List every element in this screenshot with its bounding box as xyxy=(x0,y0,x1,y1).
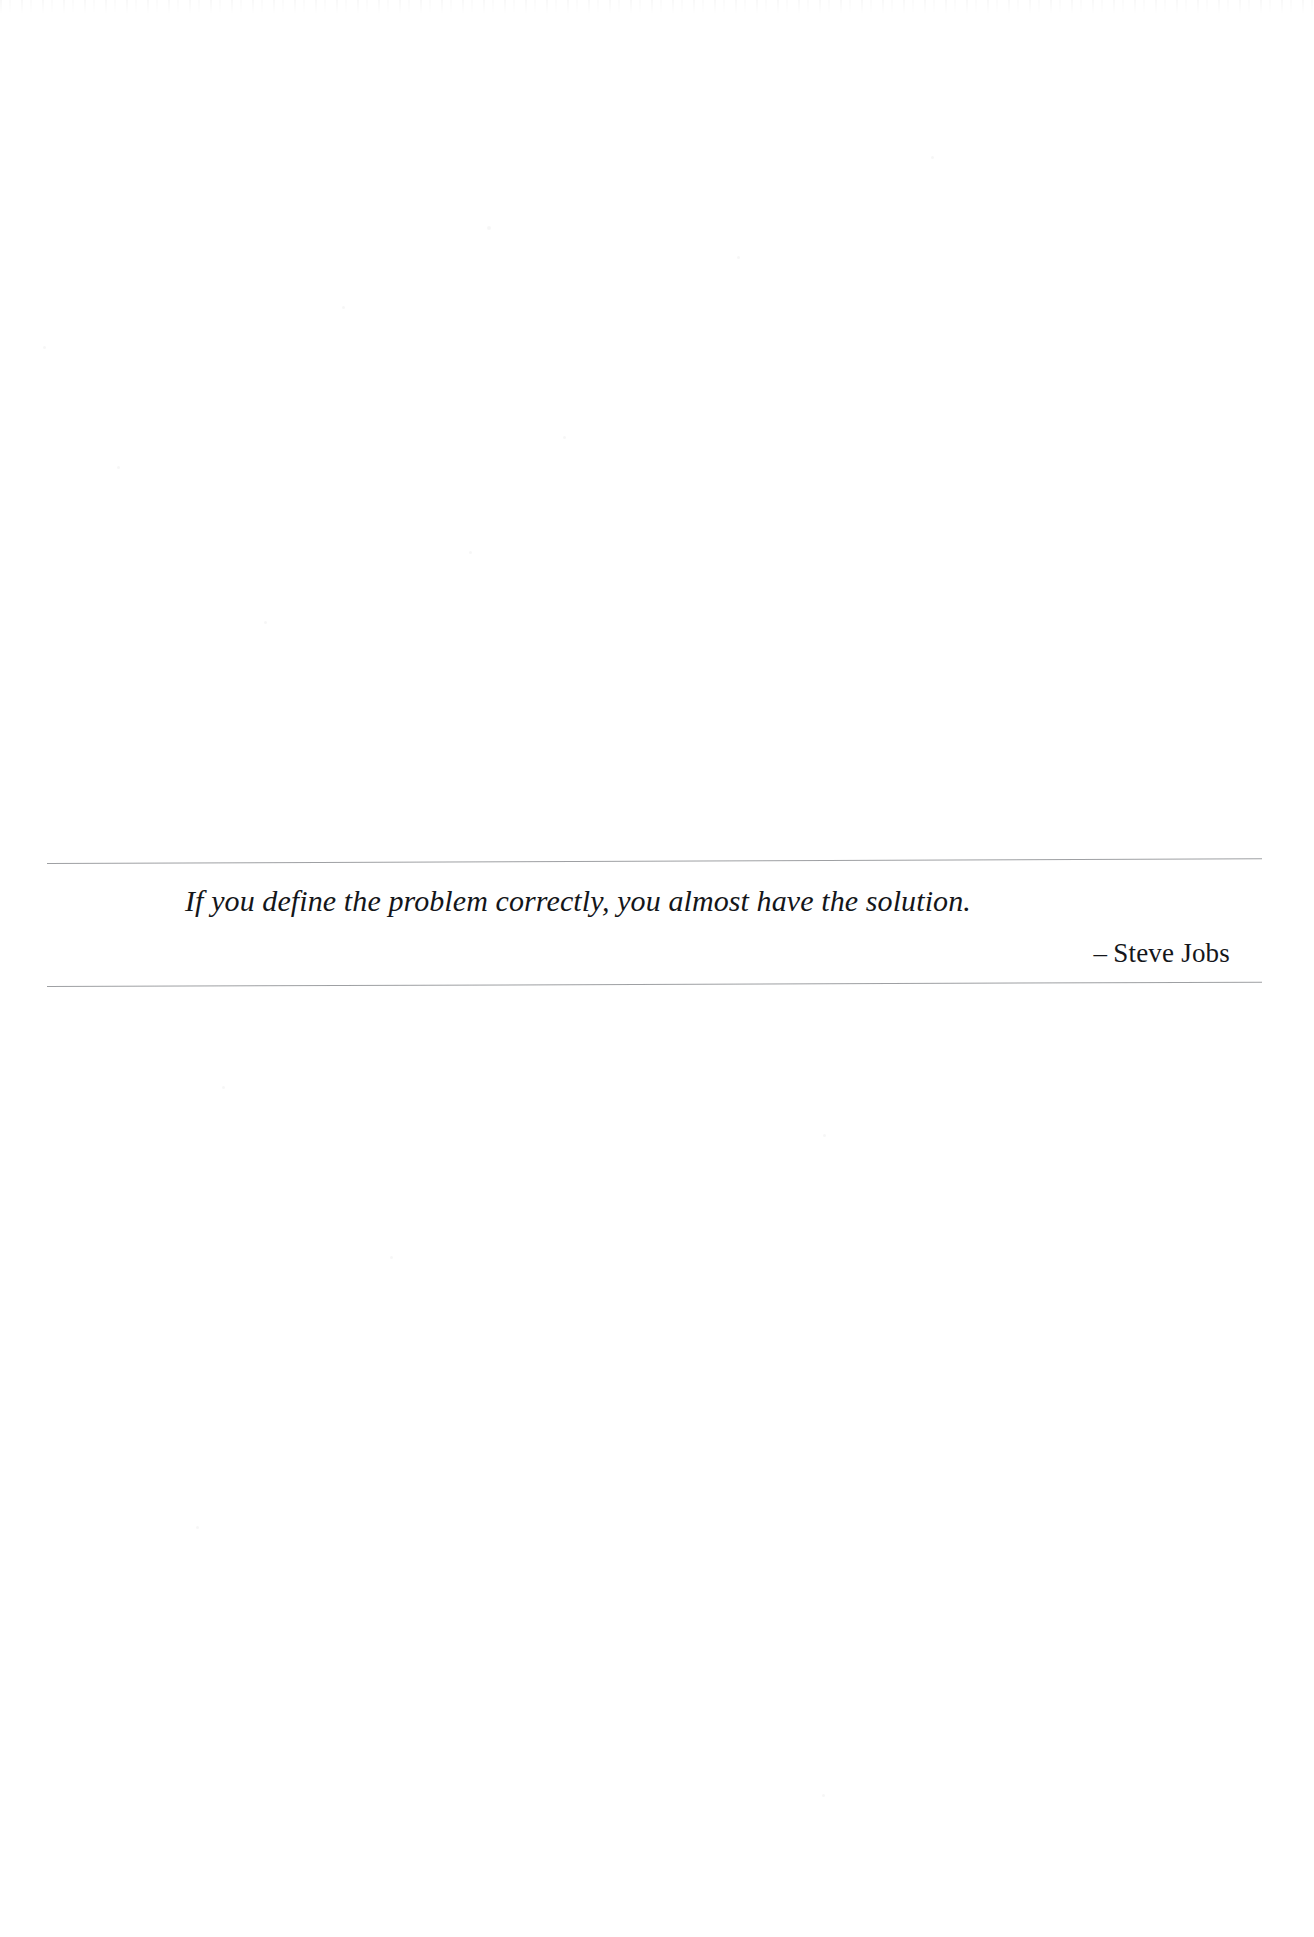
scan-speck xyxy=(563,436,566,439)
scan-speck xyxy=(117,466,120,469)
scan-speck xyxy=(342,306,345,309)
pull-quote-bottom-divider xyxy=(47,982,1262,987)
scan-speck xyxy=(469,551,472,554)
scan-speck xyxy=(822,1794,825,1797)
scan-speck xyxy=(222,1086,225,1089)
attribution-dash: – xyxy=(1094,938,1108,968)
pull-quote-attribution: –Steve Jobs xyxy=(1094,936,1230,970)
scan-artifact-top-edge xyxy=(0,0,1314,14)
scan-speck xyxy=(264,621,267,624)
scan-speck xyxy=(487,226,491,230)
scanned-page: If you define the problem correctly, you… xyxy=(0,0,1314,1937)
pull-quote-text: If you define the problem correctly, you… xyxy=(185,882,1262,920)
scan-speck xyxy=(737,256,740,259)
pull-quote-block: If you define the problem correctly, you… xyxy=(47,856,1262,992)
scan-speck xyxy=(43,346,46,349)
pull-quote-top-divider xyxy=(47,858,1262,864)
scan-speck xyxy=(931,156,934,159)
scan-speck xyxy=(196,1526,199,1529)
scan-speck xyxy=(390,1256,393,1259)
scan-speck xyxy=(823,1134,826,1137)
attribution-name: Steve Jobs xyxy=(1113,938,1230,968)
